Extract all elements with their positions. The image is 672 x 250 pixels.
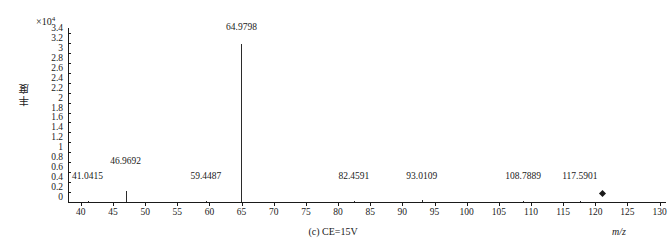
data-point-marker (599, 190, 606, 197)
x-axis-tick-mark (209, 203, 210, 206)
x-axis-tick-mark (113, 203, 114, 206)
x-axis-tick-mark (467, 203, 468, 206)
x-axis-tick-label: 75 (292, 207, 320, 218)
y-axis-tick-mark (68, 122, 71, 123)
x-axis-tick-mark (81, 203, 82, 206)
y-axis-tick-mark (68, 172, 71, 173)
x-axis-tick-label: 40 (67, 207, 95, 218)
peak-label: 93.0109 (387, 171, 457, 181)
x-axis-tick-label: 125 (613, 207, 641, 218)
x-axis-tick-mark (435, 203, 436, 206)
x-axis-tick-mark (627, 203, 628, 206)
x-axis-tick-label: 65 (228, 207, 256, 218)
x-axis-line (68, 202, 666, 203)
x-axis-tick-label: 105 (485, 207, 513, 218)
peak-label: 41.0415 (53, 171, 123, 181)
y-axis-tick-mark (68, 132, 71, 133)
x-axis-tick-mark (563, 203, 564, 206)
y-axis-tick-mark (68, 142, 71, 143)
x-axis-tick-label: 45 (99, 207, 127, 218)
y-axis-tick-mark (68, 152, 71, 153)
peak-label: 82.4591 (319, 171, 389, 181)
x-axis-tick-mark (242, 203, 243, 206)
y-axis-tick-mark (68, 43, 71, 44)
y-axis-tick-mark (68, 33, 71, 34)
y-axis-tick-mark (68, 83, 71, 84)
peak-label: 59.4487 (171, 171, 241, 181)
y-axis-tick-mark (68, 93, 71, 94)
x-axis-tick-label: 70 (260, 207, 288, 218)
y-axis-tick-mark (68, 73, 71, 74)
x-axis-tick-label: 110 (517, 207, 545, 218)
spectrum-peak (126, 191, 127, 202)
peak-label: 64.9798 (206, 22, 276, 32)
x-axis-tick-mark (660, 203, 661, 206)
x-axis-tick-label: 120 (581, 207, 609, 218)
x-axis-tick-label: 115 (549, 207, 577, 218)
figure-caption: (c) CE=15V (0, 226, 666, 238)
x-axis-tick-label: 130 (646, 207, 672, 218)
y-axis-tick-mark (68, 53, 71, 54)
x-axis-tick-label: 90 (388, 207, 416, 218)
y-axis-tick-mark (68, 192, 71, 193)
y-axis-tick-mark (68, 162, 71, 163)
y-axis-tick-mark (68, 63, 71, 64)
x-axis-tick-label: 60 (195, 207, 223, 218)
x-axis-tick-mark (177, 203, 178, 206)
spectrum-peak (241, 44, 242, 202)
y-axis-tick-mark (68, 103, 71, 104)
y-axis-title: 丰度 (19, 82, 33, 106)
x-axis-tick-mark (338, 203, 339, 206)
x-axis-tick-label: 95 (421, 207, 449, 218)
x-axis-tick-mark (402, 203, 403, 206)
x-axis-tick-mark (145, 203, 146, 206)
x-axis-tick-label: 55 (163, 207, 191, 218)
x-axis-tick-mark (306, 203, 307, 206)
peak-label: 108.7889 (488, 171, 558, 181)
y-axis-tick-mark (68, 182, 71, 183)
x-axis-tick-label: 50 (131, 207, 159, 218)
y-axis-tick-mark (68, 113, 71, 114)
x-axis-tick-mark (531, 203, 532, 206)
x-axis-tick-label: 80 (324, 207, 352, 218)
y-axis-line (68, 28, 69, 202)
x-axis-tick-mark (499, 203, 500, 206)
x-axis-tick-mark (274, 203, 275, 206)
x-axis-tick-label: 100 (453, 207, 481, 218)
y-axis-exponent-power: 4 (52, 15, 56, 23)
y-axis-exponent-base: ×10 (36, 16, 52, 27)
x-axis-tick-mark (370, 203, 371, 206)
x-axis-tick-mark (595, 203, 596, 206)
x-axis-tick-label: 85 (356, 207, 384, 218)
peak-label: 117.5901 (545, 171, 615, 181)
peak-label: 46.9692 (91, 156, 161, 166)
